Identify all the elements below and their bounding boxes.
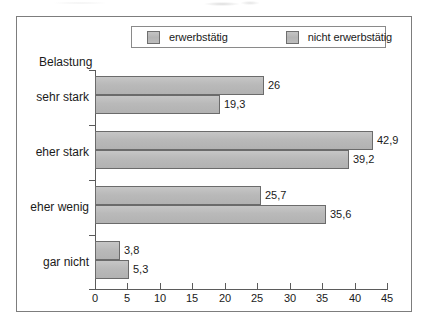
y-axis-tick — [89, 235, 96, 236]
x-axis-tick — [225, 283, 226, 289]
chart-frame: erwerbstätig nicht erwerbstätig Belastun… — [16, 16, 412, 312]
x-axis-tick-label: 5 — [112, 293, 142, 304]
y-axis-tick — [89, 180, 96, 181]
scan-artifact — [0, 0, 429, 14]
bar-eher-wenig-nicht-erwerbstaetig — [95, 205, 326, 224]
y-axis-tick — [89, 289, 96, 290]
x-axis-tick-label: 45 — [372, 293, 402, 304]
x-axis-tick — [322, 283, 323, 289]
x-axis-tick-label: 10 — [145, 293, 175, 304]
bar-value-label: 3,8 — [124, 245, 139, 256]
x-axis-tick — [192, 283, 193, 289]
category-label-gar-nicht: gar nicht — [17, 256, 89, 268]
bar-eher-stark-erwerbstaetig — [95, 131, 373, 150]
bar-sehr-stark-erwerbstaetig — [95, 76, 264, 95]
bar-value-label: 25,7 — [265, 190, 286, 201]
x-axis-tick — [387, 283, 388, 289]
x-axis-tick — [127, 283, 128, 289]
bar-value-label: 5,3 — [133, 264, 148, 275]
bar-sehr-stark-nicht-erwerbstaetig — [95, 95, 220, 114]
x-axis-tick — [160, 283, 161, 289]
category-label-sehr-stark: sehr stark — [17, 91, 89, 103]
plot-area: sehr stark eher stark eher wenig gar nic… — [17, 17, 413, 313]
x-axis-tick-label: 20 — [210, 293, 240, 304]
x-axis-tick-label: 35 — [307, 293, 337, 304]
x-axis-tick-label: 25 — [242, 293, 272, 304]
x-axis-tick — [355, 283, 356, 289]
bar-value-label: 39,2 — [353, 154, 374, 165]
bar-value-label: 42,9 — [377, 135, 398, 146]
bar-value-label: 19,3 — [224, 99, 245, 110]
category-label-eher-wenig: eher wenig — [17, 201, 89, 213]
x-axis-tick-label: 40 — [340, 293, 370, 304]
x-axis-tick — [257, 283, 258, 289]
x-axis-tick-label: 0 — [80, 293, 110, 304]
bar-eher-stark-nicht-erwerbstaetig — [95, 150, 349, 169]
bar-gar-nicht-nicht-erwerbstaetig — [95, 260, 129, 279]
x-axis-tick — [95, 283, 96, 289]
bar-gar-nicht-erwerbstaetig — [95, 241, 120, 260]
x-axis-tick-label: 15 — [177, 293, 207, 304]
y-axis-tick — [89, 125, 96, 126]
bar-value-label: 35,6 — [330, 209, 351, 220]
bar-value-label: 26 — [268, 80, 280, 91]
category-label-eher-stark: eher stark — [17, 146, 89, 158]
x-axis-tick-label: 30 — [275, 293, 305, 304]
x-axis-line — [95, 289, 388, 290]
y-axis-tick — [89, 70, 96, 71]
bar-eher-wenig-erwerbstaetig — [95, 186, 261, 205]
x-axis-tick — [290, 283, 291, 289]
